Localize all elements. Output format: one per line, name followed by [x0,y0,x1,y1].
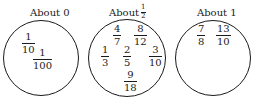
numerator: 1 [141,4,145,11]
numerator: 9 [126,70,134,80]
numerator: 1 [24,32,32,42]
denominator: 3 [102,58,108,68]
fraction-8-12: 8 12 [134,24,147,47]
fraction-4-7: 4 7 [113,24,121,47]
numerator: 8 [136,24,144,34]
denominator: 12 [134,37,147,47]
circle-about-1 [175,20,251,96]
numerator: 2 [123,45,131,55]
numerator: 7 [197,24,205,34]
fraction-1-100: 1 100 [33,48,52,71]
denominator: 8 [198,37,204,47]
label-about-0: About 0 [30,8,70,18]
label-text: About [109,7,139,18]
numerator: 1 [101,45,109,55]
fraction-9-18: 9 18 [124,70,137,93]
numerator: 1 [38,48,46,58]
fraction-3-10: 3 10 [149,45,162,68]
denominator: 10 [217,37,230,47]
label-fraction-1-2: 1 2 [141,4,145,20]
denominator: 5 [124,58,130,68]
denominator: 18 [124,83,137,93]
denominator: 2 [141,13,145,20]
fraction-1-3: 1 3 [101,45,109,68]
numerator: 13 [216,24,231,34]
fraction-7-8: 7 8 [197,24,205,47]
numerator: 3 [151,45,159,55]
denominator: 7 [114,37,120,47]
fraction-13-10: 13 10 [216,24,231,47]
denominator: 10 [149,58,162,68]
fraction-2-5: 2 5 [123,45,131,68]
denominator: 100 [33,61,52,71]
label-about-1: About 1 [197,8,237,18]
numerator: 4 [113,24,121,34]
